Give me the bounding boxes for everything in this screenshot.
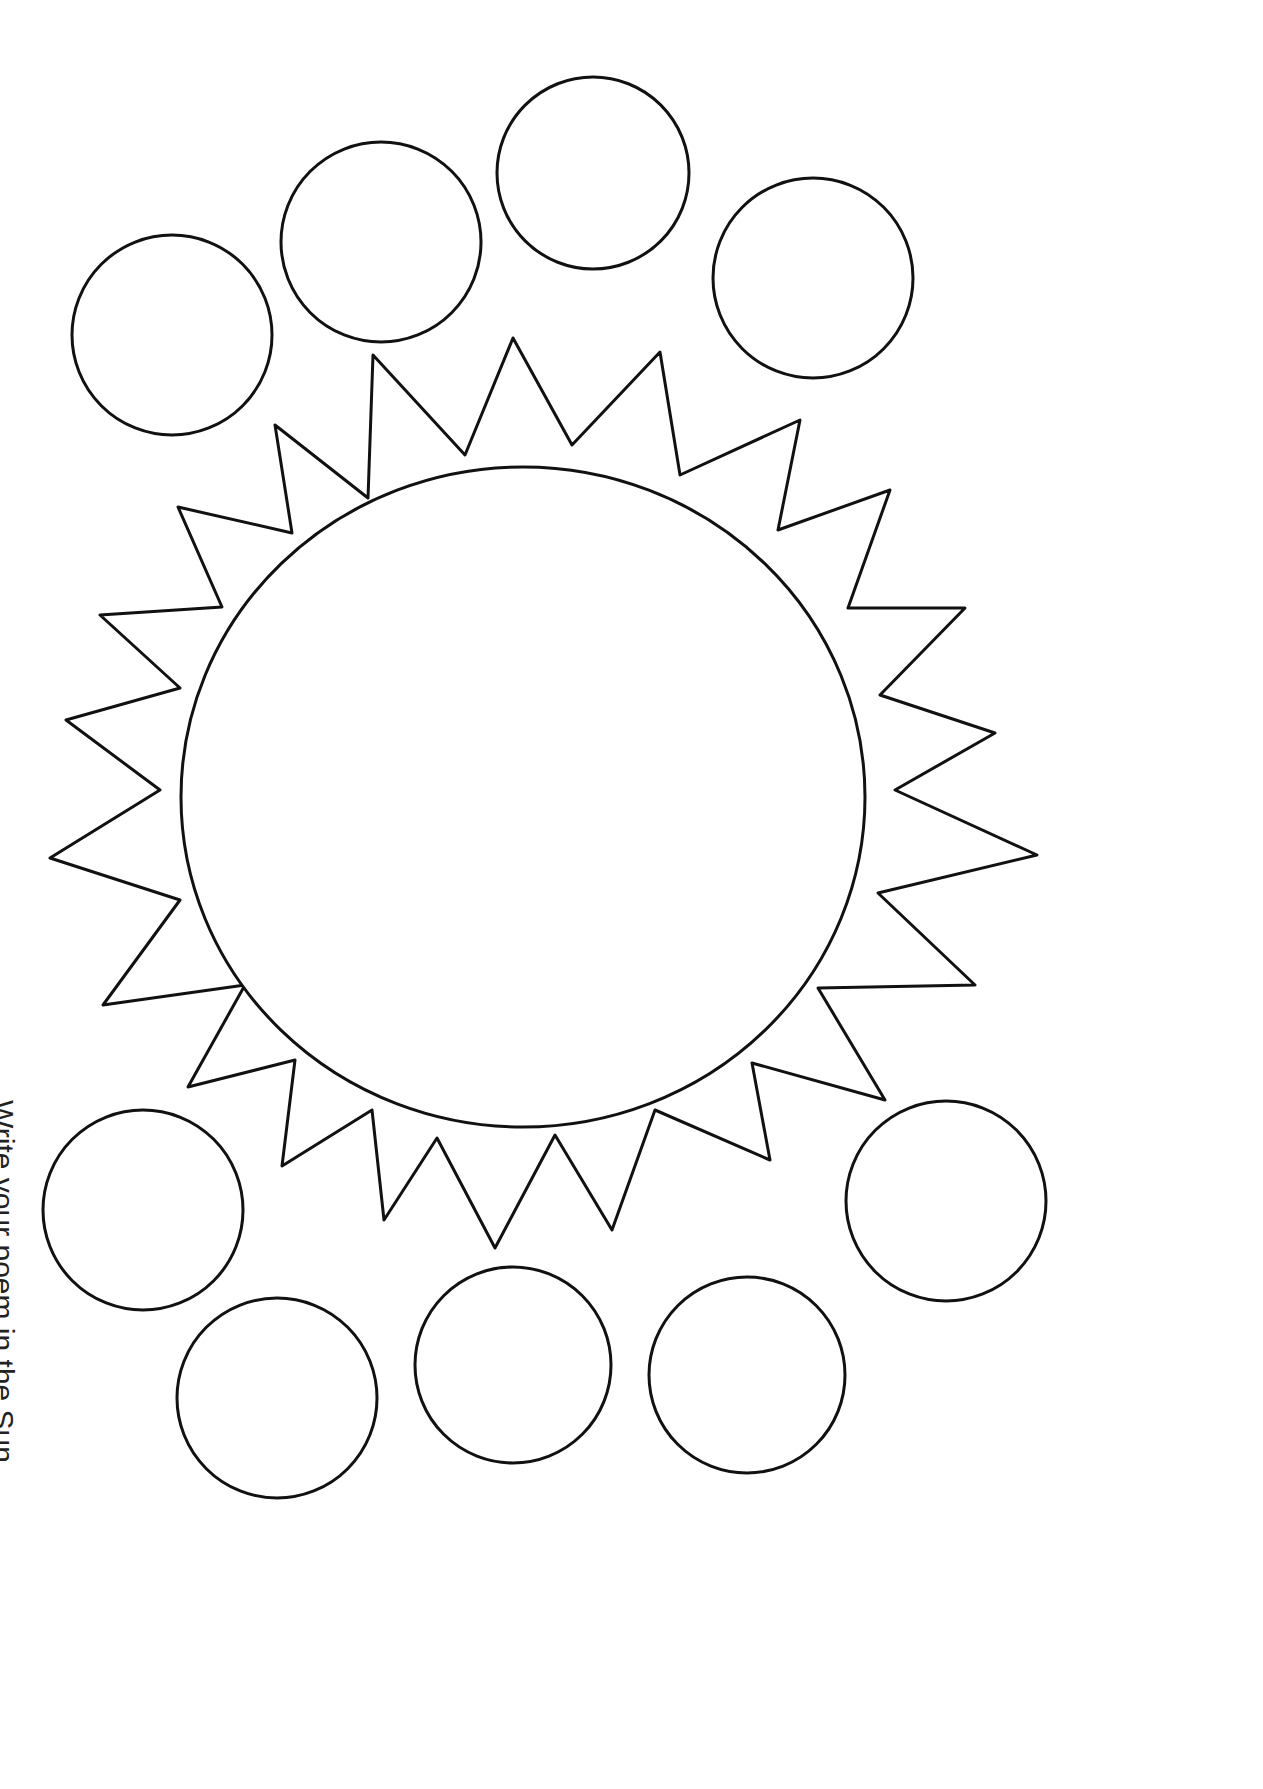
poem-circle-top-1[interactable] bbox=[72, 235, 272, 435]
worksheet-page: Write your poem in the Sun bbox=[0, 0, 1263, 1789]
poem-circle-bottom-2[interactable] bbox=[177, 1298, 377, 1498]
sun-drawing bbox=[0, 0, 1263, 1789]
poem-circle-top-3[interactable] bbox=[497, 77, 689, 269]
poem-circle-bottom-3[interactable] bbox=[415, 1267, 611, 1463]
poem-circle-top-4[interactable] bbox=[713, 178, 913, 378]
poem-circle-top-2[interactable] bbox=[281, 142, 481, 342]
sun-core-circle[interactable] bbox=[181, 467, 865, 1127]
poem-circle-bottom-1[interactable] bbox=[43, 1110, 243, 1310]
poem-circle-bottom-4[interactable] bbox=[649, 1277, 845, 1473]
poem-circle-bottom-5[interactable] bbox=[846, 1101, 1046, 1301]
